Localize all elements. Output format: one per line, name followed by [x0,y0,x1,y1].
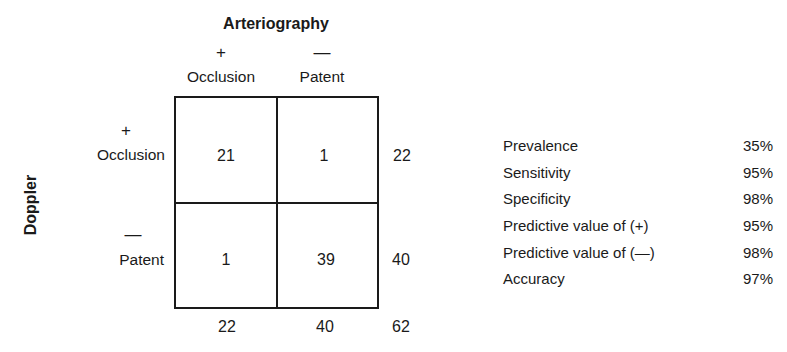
statistics-list: Prevalence 35% Sensitivity 95% Specifici… [503,132,773,292]
cell-true-positive: 21 [217,147,235,165]
stat-accuracy: Accuracy 97% [503,265,773,292]
column-axis-title: Arteriography [223,15,329,33]
stat-value: 95% [733,164,773,181]
stat-value: 98% [733,190,773,207]
stat-value: 97% [733,270,773,287]
stat-ppv: Predictive value of (+) 95% [503,212,773,239]
row-label-occlusion: Occlusion [97,146,165,164]
stat-name: Prevalence [503,137,733,154]
row-negative-sign: — [125,226,142,243]
column-total-patent: 40 [316,318,334,336]
column-label-occlusion: Occlusion [187,68,255,86]
row-axis-title: Doppler [22,175,40,235]
stat-sensitivity: Sensitivity 95% [503,159,773,186]
contingency-grid [174,96,379,309]
stat-prevalence: Prevalence 35% [503,132,773,159]
stat-name: Predictive value of (—) [503,244,733,261]
stat-name: Accuracy [503,270,733,287]
cell-true-negative: 39 [317,251,335,269]
stat-value: 98% [733,244,773,261]
cell-false-negative: 1 [222,251,231,269]
stat-name: Sensitivity [503,164,733,181]
stat-value: 95% [733,217,773,234]
column-label-patent: Patent [300,68,345,86]
row-label-patent: Patent [119,251,164,269]
cell-false-positive: 1 [320,147,329,165]
row-total-positive: 22 [393,147,411,165]
row-positive-sign: + [121,122,131,139]
column-positive-sign: + [216,44,226,61]
stat-name: Predictive value of (+) [503,217,733,234]
column-total-occlusion: 22 [218,318,236,336]
column-negative-sign: — [314,44,331,61]
grid-horizontal-divider [176,202,377,204]
stat-name: Specificity [503,190,733,207]
row-total-negative: 40 [392,251,410,269]
grand-total: 62 [392,318,410,336]
stat-specificity: Specificity 98% [503,185,773,212]
stat-value: 35% [733,137,773,154]
stat-npv: Predictive value of (—) 98% [503,239,773,266]
